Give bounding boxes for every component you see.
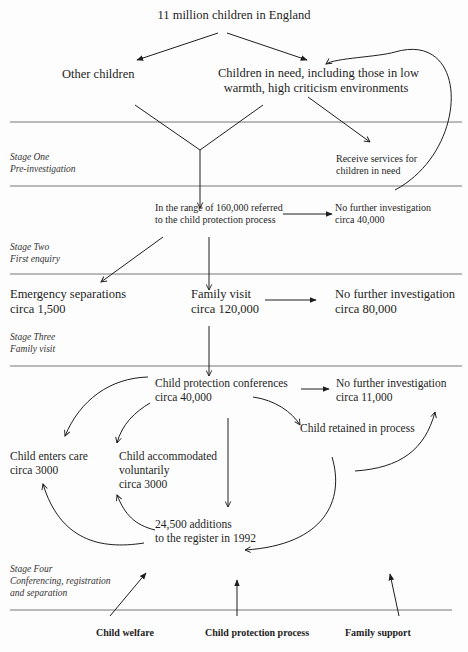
node-referred: In the range of 160,000 referred to the … bbox=[155, 202, 283, 226]
node-register-additions: 24,500 additions to the register in 1992 bbox=[155, 518, 256, 546]
node-other-children: Other children bbox=[62, 67, 135, 82]
node-child-accommodated: Child accommodated voluntarily circa 300… bbox=[119, 450, 217, 491]
label-family-support: Family support bbox=[345, 627, 411, 639]
node-child-retained: Child retained in process bbox=[300, 422, 415, 436]
label-child-protection-process: Child protection process bbox=[205, 627, 309, 639]
node-children-in-need: Children in need, including those in low… bbox=[218, 66, 414, 96]
node-total-children: 11 million children in England bbox=[154, 8, 314, 23]
stage-two-label: Stage Two First enquiry bbox=[10, 242, 60, 266]
node-no-further-investigation-11000: No further investigation circa 11,000 bbox=[336, 377, 447, 405]
stage-three-label: Stage Three Family visit bbox=[10, 332, 55, 356]
node-family-visit: Family visit circa 120,000 bbox=[191, 287, 259, 317]
flow-diagram: 11 million children in England Other chi… bbox=[0, 0, 468, 652]
node-receive-services: Receive services for children in need bbox=[336, 153, 417, 177]
node-emergency-separations: Emergency separations circa 1,500 bbox=[10, 287, 126, 317]
node-child-protection-conferences: Child protection conferences circa 40,00… bbox=[155, 377, 288, 405]
node-no-further-investigation-40000: No further investigation circa 40,000 bbox=[335, 202, 431, 226]
node-no-further-investigation-80000: No further investigation circa 80,000 bbox=[335, 287, 455, 317]
diagram-connectors bbox=[0, 0, 468, 652]
stage-four-label: Stage Four Conferencing, registration an… bbox=[10, 564, 111, 600]
label-child-welfare: Child welfare bbox=[96, 627, 154, 639]
stage-one-label: Stage One Pre-investigation bbox=[10, 152, 76, 176]
node-child-enters-care: Child enters care circa 3000 bbox=[10, 450, 88, 478]
